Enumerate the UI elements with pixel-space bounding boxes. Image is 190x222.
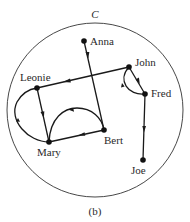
node-joe [140,157,146,163]
figure-caption: (b) [89,205,102,218]
node-label-john: John [135,56,156,68]
arrow-icon [142,126,146,133]
node-fred [142,91,148,97]
node-label-leonie: Leonie [20,71,51,83]
arrow-icon [78,132,85,136]
node-leonie [34,85,40,91]
set-label: C [91,8,99,20]
arrow-icon [41,111,45,118]
edge-mary-bert [49,108,104,142]
node-label-fred: Fred [151,87,172,99]
relation-digraph: C Anna John Fred Leonie Mary Bert Joe (b… [0,0,190,222]
node-label-joe: Joe [131,164,146,176]
node-label-anna: Anna [90,35,114,47]
node-john [126,64,132,70]
node-bert [101,127,107,133]
node-label-bert: Bert [104,134,123,146]
arrow-icon [121,83,125,88]
node-anna [81,38,87,44]
edge-bert-mary [49,130,104,142]
node-label-mary: Mary [37,146,61,158]
set-boundary-circle [7,23,183,197]
edge-john-leonie [37,67,129,88]
node-mary [46,139,52,145]
edge-fred-john [124,67,145,94]
arrow-icon [63,79,71,83]
